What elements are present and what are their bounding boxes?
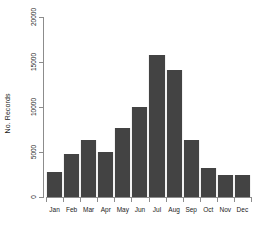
- bar-sep: [183, 140, 200, 197]
- bar-mar: [80, 140, 97, 197]
- bar-oct: [200, 168, 217, 197]
- y-axis-tick: [39, 17, 43, 18]
- x-axis-tick: [63, 198, 64, 202]
- bar-jul: [148, 55, 165, 197]
- y-axis-label: No. Records: [0, 0, 16, 227]
- y-axis-tick: [39, 152, 43, 153]
- bar-chart: No. Records 05000100001500020000 JanFebM…: [0, 0, 260, 227]
- y-axis-tick-label: 15000: [29, 42, 39, 82]
- plot-area: [46, 17, 251, 197]
- bar-may: [114, 128, 131, 197]
- y-axis-tick: [39, 197, 43, 198]
- x-axis-tick: [251, 198, 252, 202]
- bar-series: [46, 17, 251, 197]
- bar-dec: [234, 175, 251, 198]
- x-axis-tick: [217, 198, 218, 202]
- y-axis-tick: [39, 107, 43, 108]
- x-axis-tick-label-feb: Feb: [63, 204, 80, 216]
- y-axis-tick-label: 0: [29, 177, 39, 217]
- x-axis-tick-label-jul: Jul: [148, 204, 165, 216]
- x-axis-tick-label-nov: Nov: [217, 204, 234, 216]
- x-axis-tick-label-jun: Jun: [131, 204, 148, 216]
- x-axis-tick-label-mar: Mar: [80, 204, 97, 216]
- x-axis-tick: [80, 198, 81, 202]
- y-axis-line: [43, 17, 44, 198]
- x-axis-tick: [149, 198, 150, 202]
- bar-jun: [131, 107, 148, 197]
- x-axis-tick-label-may: May: [114, 204, 131, 216]
- bar-nov: [217, 175, 234, 197]
- x-axis-tick-label-oct: Oct: [200, 204, 217, 216]
- x-axis-tick: [166, 198, 167, 202]
- x-axis-tick-label-apr: Apr: [97, 204, 114, 216]
- y-axis-tick-label: 10000: [29, 87, 39, 127]
- x-axis-tick-labels: JanFebMarAprMayJunJulAugSepOctNovDec: [46, 204, 251, 216]
- x-axis-tick: [131, 198, 132, 202]
- x-axis-tick-label-dec: Dec: [234, 204, 251, 216]
- x-axis-tick: [234, 198, 235, 202]
- y-axis-tick: [39, 62, 43, 63]
- y-axis-tick-label: 20000: [29, 0, 39, 37]
- x-axis-tick: [114, 198, 115, 202]
- bar-jan: [46, 172, 63, 197]
- x-axis-tick: [46, 198, 47, 202]
- x-axis-tick: [183, 198, 184, 202]
- x-axis-tick-label-sep: Sep: [183, 204, 200, 216]
- x-axis-tick-label-aug: Aug: [166, 204, 183, 216]
- bar-aug: [166, 70, 183, 197]
- x-axis-tick: [200, 198, 201, 202]
- bar-feb: [63, 154, 80, 197]
- x-axis-tick-label-jan: Jan: [46, 204, 63, 216]
- y-axis-tick-label: 5000: [29, 132, 39, 172]
- bar-apr: [97, 152, 114, 197]
- x-axis-tick: [97, 198, 98, 202]
